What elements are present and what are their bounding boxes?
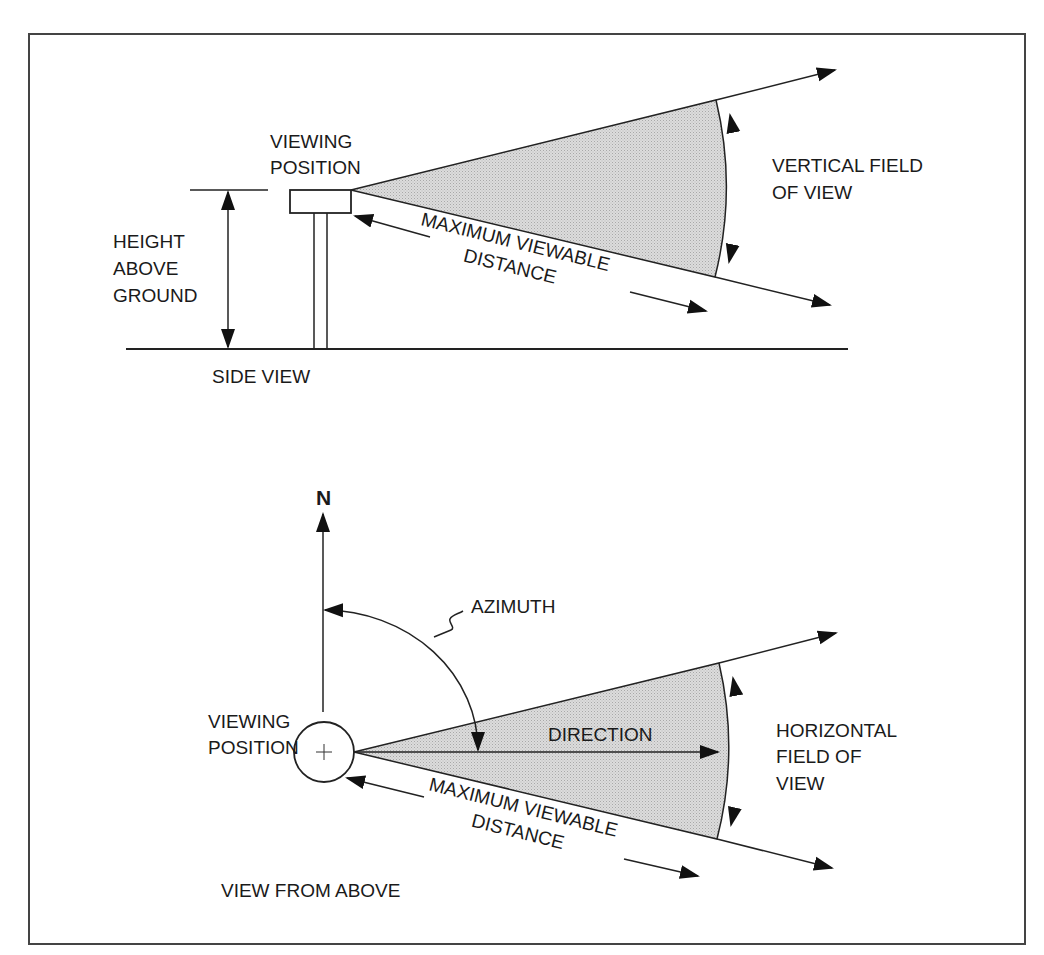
horizontal-fov-label-3: VIEW	[776, 773, 825, 794]
horizontal-fov-label-1: HORIZONTAL	[776, 720, 897, 741]
azimuth-label: AZIMUTH	[471, 596, 555, 617]
lower-ray-arrow-top	[717, 839, 832, 868]
vertical-fov-label-1: VERTICAL FIELD	[772, 155, 923, 176]
side-view-caption: SIDE VIEW	[212, 366, 310, 387]
viewing-position-label-top-2: POSITION	[208, 737, 299, 758]
hfov-arc-arrows	[731, 678, 739, 825]
height-label-1: HEIGHT	[113, 231, 185, 252]
side-view-panel: VIEWING POSITION HEIGHT ABOVE GROUND VER…	[113, 70, 923, 387]
viewing-position-label-top-1: VIEWING	[208, 711, 290, 732]
height-label-2: ABOVE	[113, 258, 178, 279]
top-view-caption: VIEW FROM ABOVE	[221, 880, 400, 901]
upper-ray-arrow-top	[719, 633, 836, 663]
height-label-3: GROUND	[113, 285, 197, 306]
vertical-fov-label-2: OF VIEW	[772, 182, 852, 203]
azimuth-leader	[434, 611, 463, 637]
viewing-position-label-2: POSITION	[270, 157, 361, 178]
lower-ray-arrow	[715, 277, 830, 305]
viewshed-diagram: VIEWING POSITION HEIGHT ABOVE GROUND VER…	[0, 0, 1044, 955]
distance-arrow-right-top	[624, 859, 698, 876]
top-view-panel: N AZIMUTH DIRECTION VIEWING POSITION HOR…	[208, 486, 897, 901]
vfov-arc-arrows	[729, 115, 737, 262]
distance-arrow-left-top	[347, 778, 424, 797]
horizontal-fov-label-2: FIELD OF	[776, 746, 862, 767]
direction-label: DIRECTION	[548, 724, 653, 745]
upper-ray-arrow	[716, 70, 835, 100]
viewing-position-label-1: VIEWING	[270, 131, 352, 152]
viewing-position-box	[290, 190, 351, 213]
north-label: N	[316, 486, 331, 509]
distance-arrow-right	[630, 292, 706, 311]
